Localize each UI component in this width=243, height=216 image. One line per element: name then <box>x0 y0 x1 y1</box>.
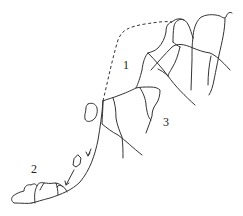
label-zone-1: 1 <box>123 59 129 71</box>
detached-block-upper <box>85 103 98 121</box>
rock-joints <box>102 42 230 158</box>
rockfall-diagram <box>0 0 243 216</box>
falling-fragment <box>73 155 81 167</box>
original-slope-dashed-outline <box>103 22 172 101</box>
motion-arrow-lower-icon <box>65 170 74 185</box>
rock-mass-upper <box>103 12 232 101</box>
label-zone-2: 2 <box>31 163 37 175</box>
debris-pile <box>12 183 67 204</box>
motion-arrow-upper-icon <box>86 149 91 156</box>
slope-surface <box>32 101 103 203</box>
label-zone-3: 3 <box>163 116 169 128</box>
